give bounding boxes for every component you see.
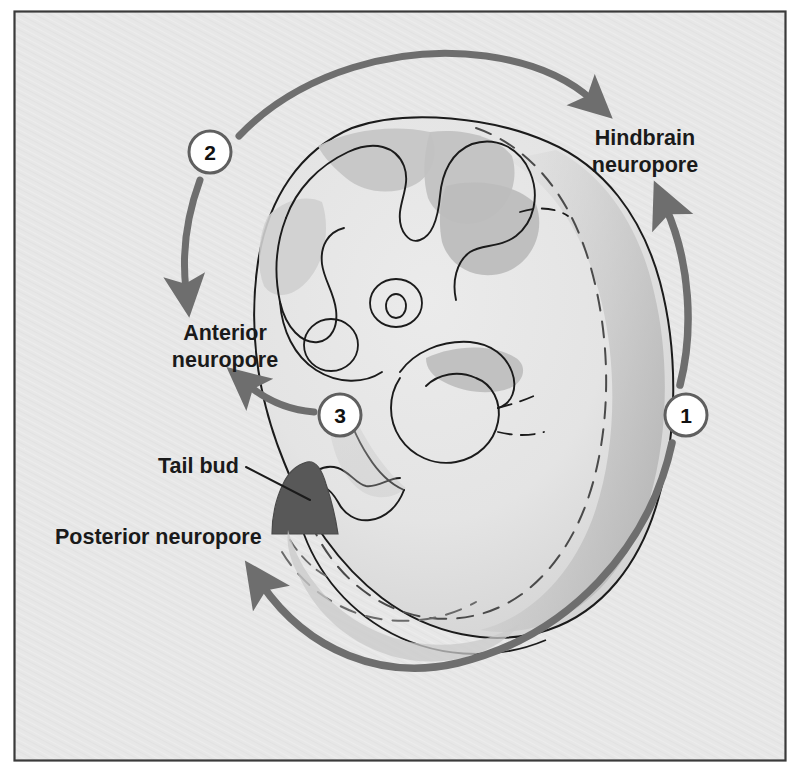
- badge-2[interactable]: 2: [189, 131, 231, 173]
- posterior-neuropore-label: Posterior neuropore: [55, 525, 262, 549]
- anterior-neuropore-label-line1: Anterior: [183, 321, 267, 345]
- badge-1[interactable]: 1: [665, 394, 707, 436]
- hindbrain-neuropore-label-line2: neuropore: [592, 153, 698, 177]
- badge-2-number: 2: [204, 141, 216, 164]
- anterior-neuropore-label-line2: neuropore: [172, 348, 278, 372]
- badge-3-number: 3: [334, 404, 346, 427]
- badge-3[interactable]: 3: [319, 394, 361, 436]
- embryo-neuropore-figure: Hindbrain neuropore Anterior neuropore T…: [0, 0, 799, 773]
- badge-1-number: 1: [680, 404, 692, 427]
- figure-canvas: Hindbrain neuropore Anterior neuropore T…: [0, 0, 799, 773]
- hindbrain-neuropore-label-line1: Hindbrain: [595, 126, 695, 150]
- tail-bud-label: Tail bud: [158, 454, 239, 478]
